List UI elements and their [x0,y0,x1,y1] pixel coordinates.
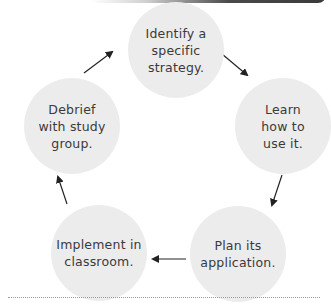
arrow-identify-to-learn [222,54,247,75]
node-identify-strategy: Identify aspecificstrategy. [128,2,224,98]
node-implement-classroom: Implement inclassroom. [51,205,147,301]
node-debrief-label: Debriefwith studygroup. [38,101,105,152]
node-plan-application: Plan itsapplication. [190,206,286,302]
node-debrief-group: Debriefwith studygroup. [24,78,120,174]
arrow-learn-to-plan [272,175,282,205]
node-implement-label: Implement inclassroom. [56,236,141,270]
node-learn-how: Learnhow touse it. [235,78,331,174]
node-plan-label: Plan itsapplication. [200,237,275,271]
node-identify-label: Identify aspecificstrategy. [146,25,207,76]
arrow-implement-to-debrief [58,177,67,204]
arrow-debrief-to-identify [84,52,112,73]
dotted-divider [8,297,320,298]
node-learn-label: Learnhow touse it. [261,101,305,152]
